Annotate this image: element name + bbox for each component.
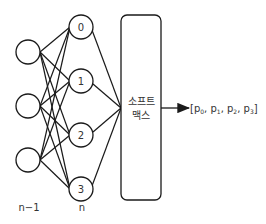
output-bracket-close: ] bbox=[254, 103, 258, 114]
neuron-label: 2 bbox=[78, 130, 84, 141]
output-vector: [p0, p1, p2, p3] bbox=[190, 103, 258, 115]
neural-network-diagram: 0 1 2 3 소프트 맥스 [p0, p1, p2, p3] n−1 n bbox=[0, 0, 266, 224]
neuron-node bbox=[16, 94, 40, 118]
neuron-label: 0 bbox=[78, 22, 84, 33]
neuron-label: 1 bbox=[78, 76, 84, 87]
layer-label-n: n bbox=[79, 202, 85, 213]
edge bbox=[40, 160, 70, 189]
layer-label-n-minus-1: n−1 bbox=[18, 202, 39, 213]
neuron-label: 3 bbox=[78, 184, 84, 195]
softmax-label-line1: 소프트 bbox=[128, 96, 155, 107]
neuron-node bbox=[16, 40, 40, 64]
layer-n-minus-1 bbox=[16, 40, 40, 172]
softmax-box bbox=[121, 15, 161, 200]
layer-n-labels: 0 1 2 3 bbox=[78, 22, 84, 195]
softmax-label-line2: 맥스 bbox=[132, 110, 150, 121]
hidden-connections bbox=[40, 27, 70, 189]
layer-n bbox=[69, 15, 93, 201]
softmax-connections bbox=[92, 30, 121, 186]
neuron-node bbox=[16, 148, 40, 172]
